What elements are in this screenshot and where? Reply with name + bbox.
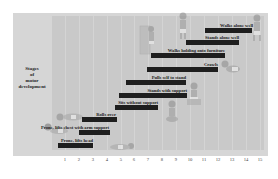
walking-baby-icon bbox=[250, 14, 264, 42]
bar-label: Prone, lifts head bbox=[61, 138, 93, 143]
furniture-baby-icon bbox=[139, 20, 155, 56]
x-tick-label: 2 bbox=[74, 157, 84, 162]
y-axis-label-line: development bbox=[14, 84, 50, 90]
x-tick-label: 10 bbox=[185, 157, 195, 162]
bar-label: Rolls over bbox=[96, 112, 116, 117]
range-bar bbox=[186, 40, 239, 45]
x-tick-label: 1 bbox=[60, 157, 70, 162]
y-axis-label: Stages of motor development bbox=[14, 66, 50, 90]
x-tick-label: 13 bbox=[227, 157, 237, 162]
x-tick-label: 3 bbox=[88, 157, 98, 162]
x-tick-label: 4 bbox=[102, 157, 112, 162]
gridline bbox=[246, 16, 247, 150]
range-bar bbox=[119, 93, 187, 98]
x-tick-label: 9 bbox=[171, 157, 181, 162]
range-bar bbox=[58, 143, 93, 148]
x-tick-label: 5 bbox=[116, 157, 126, 162]
x-tick-label: 6 bbox=[129, 157, 139, 162]
bar-label: Walks alone well bbox=[220, 23, 253, 28]
range-bar bbox=[82, 117, 117, 122]
x-tick-label: 12 bbox=[213, 157, 223, 162]
x-tick-label: 7 bbox=[143, 157, 153, 162]
range-bar bbox=[151, 53, 225, 58]
range-bar bbox=[115, 105, 158, 110]
x-tick-label: 15 bbox=[255, 157, 265, 162]
bar-label: Walks holding onto furniture bbox=[168, 48, 225, 53]
range-bar bbox=[79, 130, 110, 135]
range-bar bbox=[205, 28, 252, 33]
range-bar bbox=[147, 67, 218, 72]
sitting-baby-icon bbox=[164, 100, 180, 124]
bar-label: Stands alone well bbox=[205, 35, 239, 40]
standing-support-baby-icon bbox=[186, 82, 202, 106]
bar-label: Sits without support bbox=[118, 100, 158, 105]
crawling-baby-icon bbox=[220, 60, 242, 76]
standing-baby-icon bbox=[176, 12, 190, 40]
x-tick-label: 11 bbox=[199, 157, 209, 162]
x-tick-label: 14 bbox=[241, 157, 251, 162]
x-tick-label: 8 bbox=[157, 157, 167, 162]
bar-label: Stands with support bbox=[147, 88, 187, 93]
bar-label: Prone, lifts chest with arm support bbox=[41, 125, 109, 130]
range-bar bbox=[126, 80, 186, 85]
prone-head-baby-icon bbox=[108, 140, 136, 152]
gridline bbox=[121, 16, 122, 150]
bar-label: Crawls bbox=[204, 62, 218, 67]
bar-label: Pulls self to stand bbox=[152, 75, 186, 80]
